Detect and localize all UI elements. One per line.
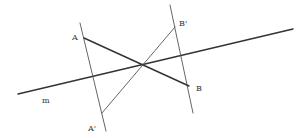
label-a: A <box>71 33 78 42</box>
label-b-prime: B' <box>179 19 187 28</box>
reflection-diagram: A B' B A' m <box>0 0 308 138</box>
segment-a-prime-b-prime <box>102 27 175 113</box>
label-b: B <box>196 84 202 93</box>
line-m <box>18 29 293 94</box>
label-m: m <box>42 96 50 105</box>
segment-ab <box>84 38 189 86</box>
label-a-prime: A' <box>87 124 96 133</box>
perpendicular-line-a <box>80 23 106 131</box>
